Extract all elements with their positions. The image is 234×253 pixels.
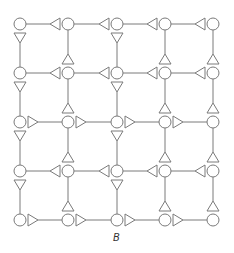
triangle-right-icon: [125, 116, 135, 128]
circle-node: [111, 214, 123, 226]
circle-node: [159, 67, 171, 79]
triangle-up-icon: [159, 54, 171, 64]
circle-node: [62, 67, 74, 79]
circle-node: [207, 214, 219, 226]
triangle-left-icon: [99, 67, 109, 79]
triangle-up-icon: [159, 201, 171, 211]
circle-node: [111, 67, 123, 79]
circle-node: [14, 165, 26, 177]
circle-node: [111, 116, 123, 128]
triangle-right-icon: [173, 116, 183, 128]
circle-node: [62, 214, 74, 226]
triangle-left-icon: [99, 18, 109, 30]
grid-diagram: [0, 0, 234, 253]
circle-node: [14, 18, 26, 30]
triangle-down-icon: [111, 82, 123, 92]
triangle-up-icon: [207, 103, 219, 113]
triangle-right-icon: [76, 116, 86, 128]
triangle-up-icon: [62, 152, 74, 162]
circle-node: [207, 18, 219, 30]
circle-node: [207, 67, 219, 79]
triangle-right-icon: [125, 214, 135, 226]
triangle-left-icon: [147, 67, 157, 79]
triangle-left-icon: [147, 165, 157, 177]
triangle-left-icon: [50, 18, 60, 30]
circle-node: [111, 165, 123, 177]
triangle-up-icon: [207, 152, 219, 162]
circle-node: [111, 18, 123, 30]
circle-node: [14, 67, 26, 79]
triangle-left-icon: [195, 18, 205, 30]
triangle-up-icon: [62, 103, 74, 113]
circle-node: [159, 165, 171, 177]
triangle-left-icon: [50, 165, 60, 177]
triangle-down-icon: [111, 180, 123, 190]
circle-node: [207, 116, 219, 128]
triangle-left-icon: [50, 67, 60, 79]
circle-node: [159, 214, 171, 226]
triangle-up-icon: [62, 54, 74, 64]
triangle-down-icon: [14, 33, 26, 43]
triangle-right-icon: [28, 214, 38, 226]
triangle-up-icon: [159, 152, 171, 162]
triangle-up-icon: [62, 201, 74, 211]
circle-node: [159, 18, 171, 30]
triangle-down-icon: [14, 82, 26, 92]
figure-caption: B: [113, 232, 120, 243]
triangle-left-icon: [195, 165, 205, 177]
triangle-down-icon: [111, 33, 123, 43]
circle-node: [159, 116, 171, 128]
circle-node: [62, 18, 74, 30]
circle-node: [62, 165, 74, 177]
triangle-down-icon: [14, 131, 26, 141]
circle-node: [14, 116, 26, 128]
triangle-left-icon: [147, 18, 157, 30]
triangle-right-icon: [76, 214, 86, 226]
circle-node: [62, 116, 74, 128]
triangle-up-icon: [207, 201, 219, 211]
triangle-right-icon: [173, 214, 183, 226]
triangle-up-icon: [207, 54, 219, 64]
triangle-left-icon: [99, 165, 109, 177]
triangle-down-icon: [111, 131, 123, 141]
triangle-left-icon: [195, 67, 205, 79]
circle-node: [207, 165, 219, 177]
triangle-down-icon: [14, 180, 26, 190]
circle-node: [14, 214, 26, 226]
triangle-right-icon: [28, 116, 38, 128]
triangle-up-icon: [159, 103, 171, 113]
